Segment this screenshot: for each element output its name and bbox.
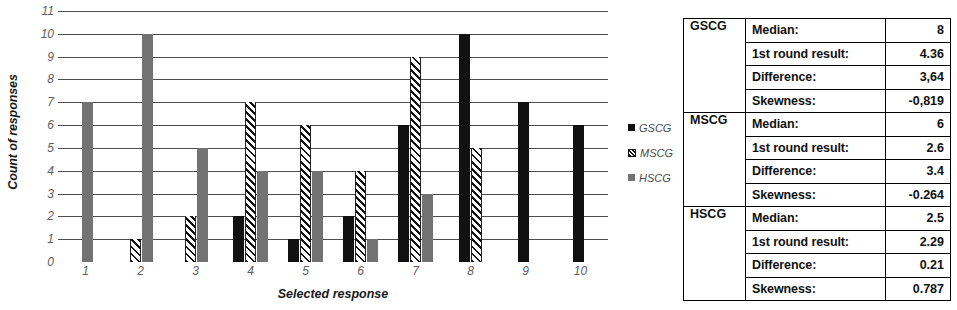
- bar-gscg-9: [518, 102, 529, 262]
- x-tick-label: 5: [278, 264, 333, 284]
- table-value-cell: -0.264: [886, 183, 951, 207]
- table-label-cell: Skewness:: [746, 183, 886, 207]
- chart-legend: GSCGMSCGHSCG: [628, 115, 688, 190]
- bar-group: [223, 11, 278, 262]
- x-tick-label: 7: [388, 264, 443, 284]
- y-tick-label: 10: [22, 27, 54, 41]
- legend-item-mscg[interactable]: MSCG: [628, 140, 688, 165]
- table-value-cell: 2.5: [886, 207, 951, 231]
- table-label-cell: Difference:: [746, 160, 886, 184]
- y-tick-label: 7: [22, 95, 54, 109]
- statistics-table: GSCGMedian:81st round result:4.36Differe…: [683, 18, 951, 301]
- bar-hscg-3: [197, 148, 208, 262]
- bar-group: [113, 11, 168, 262]
- x-tick-label: 2: [113, 264, 168, 284]
- bar-mscg-2: [130, 239, 141, 262]
- table-row: MSCGMedian:6: [684, 113, 951, 137]
- table-value-cell: 0.21: [886, 254, 951, 278]
- x-tick-label: 3: [168, 264, 223, 284]
- figure-root: Count of responses 01234567891011 123456…: [0, 0, 957, 310]
- y-tick-label: 1: [22, 232, 54, 246]
- x-tick-label: 10: [553, 264, 608, 284]
- table-label-cell: 1st round result:: [746, 42, 886, 66]
- table-row: GSCGMedian:8: [684, 19, 951, 43]
- y-tick-label: 0: [22, 255, 54, 269]
- legend-swatch-icon: [628, 174, 635, 181]
- bar-group: [278, 11, 333, 262]
- legend-item-label: HSCG: [639, 172, 671, 184]
- legend-swatch-icon: [628, 124, 635, 131]
- bar-gscg-6: [343, 216, 354, 262]
- bar-group: [388, 11, 443, 262]
- y-tick-label: 3: [22, 187, 54, 201]
- legend-item-label: MSCG: [640, 147, 673, 159]
- legend-item-hscg[interactable]: HSCG: [628, 165, 688, 190]
- table-label-cell: Skewness:: [746, 89, 886, 113]
- table-value-cell: 6: [886, 113, 951, 137]
- y-tick-label: 6: [22, 118, 54, 132]
- y-axis-tick-labels: 01234567891011: [22, 0, 54, 268]
- table-label-cell: 1st round result:: [746, 230, 886, 254]
- bar-mscg-3: [185, 216, 196, 262]
- y-tick-label: 8: [22, 72, 54, 86]
- table-value-cell: 2.6: [886, 136, 951, 160]
- legend-item-gscg[interactable]: GSCG: [628, 115, 688, 140]
- legend-item-label: GSCG: [639, 122, 671, 134]
- plot-area: [58, 11, 608, 262]
- bar-mscg-8: [471, 148, 482, 262]
- table-group-cell: GSCG: [684, 19, 746, 113]
- bar-gscg-5: [288, 239, 299, 262]
- bar-hscg-2: [142, 34, 153, 262]
- table-label-cell: Median:: [746, 19, 886, 43]
- statistics-table-container: GSCGMedian:81st round result:4.36Differe…: [683, 18, 950, 301]
- x-tick-label: 4: [223, 264, 278, 284]
- table-label-cell: Median:: [746, 113, 886, 137]
- x-tick-label: 9: [498, 264, 553, 284]
- y-tick-label: 2: [22, 209, 54, 223]
- table-group-cell: HSCG: [684, 207, 746, 301]
- y-tick-label: 5: [22, 141, 54, 155]
- bar-group: [333, 11, 388, 262]
- bar-group: [498, 11, 553, 262]
- bar-hscg-7: [422, 194, 433, 262]
- table-value-cell: 3,64: [886, 66, 951, 90]
- table-group-cell: MSCG: [684, 113, 746, 207]
- y-tick-label: 11: [22, 4, 54, 18]
- table-value-cell: 4.36: [886, 42, 951, 66]
- table-row: HSCGMedian:2.5: [684, 207, 951, 231]
- bar-mscg-5: [300, 125, 311, 262]
- legend-swatch-icon: [628, 149, 636, 157]
- table-value-cell: 2.29: [886, 230, 951, 254]
- bar-gscg-8: [459, 34, 470, 262]
- x-tick-label: 8: [443, 264, 498, 284]
- y-tick-label: 9: [22, 50, 54, 64]
- x-axis-tick-labels: 12345678910: [58, 264, 608, 284]
- bar-chart: Count of responses 01234567891011 123456…: [0, 0, 680, 310]
- table-label-cell: Skewness:: [746, 277, 886, 301]
- bar-hscg-4: [257, 171, 268, 262]
- table-label-cell: Difference:: [746, 254, 886, 278]
- bar-group: [553, 11, 608, 262]
- bar-mscg-7: [410, 57, 421, 262]
- bar-hscg-5: [312, 171, 323, 262]
- table-value-cell: 8: [886, 19, 951, 43]
- bar-groups: [58, 11, 608, 262]
- bar-group: [168, 11, 223, 262]
- y-tick-label: 4: [22, 164, 54, 178]
- table-label-cell: 1st round result:: [746, 136, 886, 160]
- bar-hscg-6: [367, 239, 378, 262]
- bar-mscg-6: [355, 171, 366, 262]
- table-value-cell: 3.4: [886, 160, 951, 184]
- bar-group: [58, 11, 113, 262]
- table-label-cell: Difference:: [746, 66, 886, 90]
- x-axis-title: Selected response: [58, 287, 608, 301]
- table-value-cell: 0.787: [886, 277, 951, 301]
- bar-group: [443, 11, 498, 262]
- table-value-cell: -0,819: [886, 89, 951, 113]
- table-label-cell: Median:: [746, 207, 886, 231]
- bar-hscg-1: [82, 102, 93, 262]
- bar-gscg-4: [233, 216, 244, 262]
- x-tick-label: 1: [58, 264, 113, 284]
- bar-mscg-4: [245, 102, 256, 262]
- bar-gscg-10: [573, 125, 584, 262]
